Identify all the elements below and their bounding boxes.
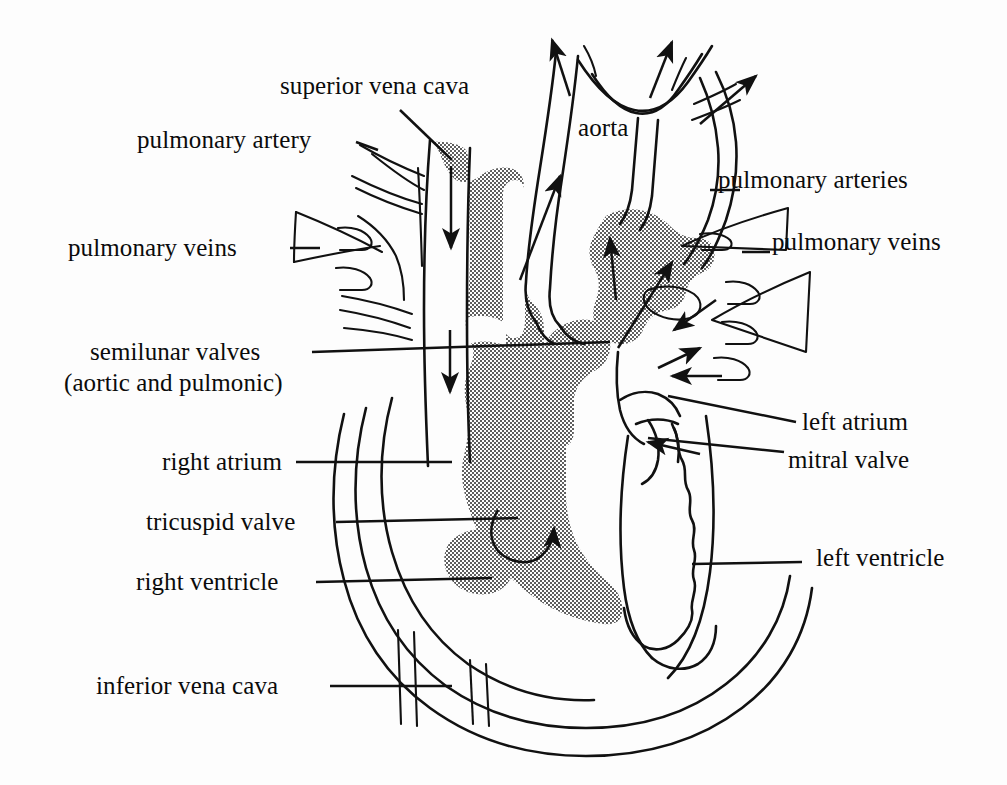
aortic-branch-vessel-2 (672, 58, 686, 90)
pv-left-tube-3 (344, 328, 412, 340)
mitral-leaflet-1 (642, 420, 659, 484)
pv-left-pointer-edge (294, 212, 296, 262)
pa-branch-1 (360, 145, 424, 176)
left-ventricle-structures (621, 416, 716, 678)
label-tricuspid-valve: tricuspid valve (146, 508, 295, 536)
left-ventricle-outflow-arrow (658, 348, 700, 368)
label-pulmonary-veins-right: pulmonary veins (772, 228, 941, 256)
atrioventricular-gap (464, 316, 506, 346)
label-pulmonary-artery: pulmonary artery (137, 126, 311, 154)
leader-mitral-valve (648, 438, 784, 452)
papillary-muscle-shading (444, 529, 514, 594)
aorta-descending-inner (684, 78, 719, 264)
ivc-line-3 (470, 660, 473, 724)
label-right-ventricle: right ventricle (136, 568, 278, 596)
ivc-line-2 (414, 632, 417, 726)
aortic-branch-vessel-3 (694, 84, 736, 104)
pa-branch-3 (352, 176, 422, 204)
shaded-right-heart-regions (432, 142, 715, 624)
lv-inner-wall-wavy (624, 428, 695, 649)
label-semilunar-valves-sub: (aortic and pulmonic) (64, 369, 283, 397)
ventricular-septum-shading (544, 319, 610, 448)
label-right-atrium: right atrium (162, 448, 282, 476)
leader-superior-vena-cava (400, 110, 452, 160)
interventricular-gap (503, 180, 525, 338)
label-mitral-valve: mitral valve (788, 446, 909, 474)
heart-anatomy-figure: superior vena cava pulmonary artery pulm… (0, 0, 1007, 785)
leader-left-atrium (668, 396, 796, 422)
left-atrium-structures (617, 352, 680, 484)
lv-outer-wall (668, 416, 713, 678)
pv-left-tube-2 (340, 310, 410, 328)
ivc-line-4 (486, 664, 489, 726)
pv-right-pointer-triangle (712, 272, 810, 352)
label-left-ventricle: left ventricle (816, 544, 944, 572)
svc-left-wall (424, 140, 430, 466)
pv-left-pointer-upper (296, 212, 382, 252)
superior-vena-cava-vessel (424, 140, 470, 466)
label-pulmonary-veins-left: pulmonary veins (68, 234, 237, 262)
ivc-line-1 (398, 630, 401, 724)
upper-right-chamber-shading (590, 209, 715, 344)
label-aorta: aorta (578, 114, 628, 142)
leader-left-ventricle (692, 562, 802, 564)
label-inferior-vena-cava: inferior vena cava (96, 672, 278, 700)
label-semilunar-valves: semilunar valves (90, 338, 260, 366)
label-left-atrium: left atrium (802, 408, 908, 436)
pv-right-hook-1 (726, 281, 760, 304)
aortic-arch-upper (578, 46, 712, 111)
pv-left-hook-2 (336, 267, 372, 290)
lv-cavity-left-wall (621, 436, 652, 658)
label-pulmonary-arteries-right: pulmonary arteries (718, 166, 908, 194)
left-atrium-inflow-arrow-1 (674, 300, 716, 330)
pa-trunk-line (418, 168, 422, 266)
pulmonary-veins-left-vessels (294, 212, 412, 340)
aortic-branch-arrow-2 (650, 42, 672, 98)
pv-left-upper-curve (358, 216, 404, 300)
label-superior-vena-cava: superior vena cava (280, 72, 469, 100)
